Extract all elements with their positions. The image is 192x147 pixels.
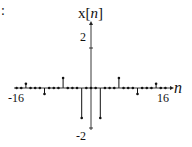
y-axis-arrow-icon [89, 21, 93, 25]
stem-marker [34, 87, 37, 90]
stem-marker [66, 87, 69, 90]
stem-marker [48, 87, 51, 90]
stem-marker [104, 87, 107, 90]
stem-marker [15, 87, 18, 90]
stem-marker [159, 87, 162, 90]
stem-marker [113, 87, 116, 90]
stem-marker [20, 87, 23, 90]
stem-marker [141, 87, 144, 90]
stem-marker [71, 87, 74, 90]
stem-marker [57, 87, 60, 90]
stem-marker [150, 87, 153, 90]
stem-marker [62, 77, 65, 80]
stem-marker [25, 83, 28, 86]
stem-marker [80, 117, 83, 120]
x-axis-label: n [174, 81, 182, 95]
stem-marker [136, 93, 139, 96]
stem-marker [127, 87, 130, 90]
stem-marker [122, 87, 125, 90]
stem-marker [94, 87, 97, 90]
stem-marker [85, 87, 88, 90]
y-axis-label: x[n] [78, 5, 103, 21]
stem-marker [108, 87, 111, 90]
stem-marker [90, 87, 93, 90]
stem-marker [76, 87, 79, 90]
stem-marker [39, 87, 42, 90]
stem-marker [155, 83, 158, 86]
x-tick-label-left: -16 [8, 92, 24, 104]
stem-marker [43, 93, 46, 96]
stem-marker [132, 87, 135, 90]
stem-plot [0, 0, 192, 147]
stem-marker [99, 117, 102, 120]
stem-marker [146, 87, 149, 90]
stem-marker [118, 77, 121, 80]
x-tick-label-right: 16 [157, 92, 169, 104]
stem-marker [164, 87, 167, 90]
stem-marker [53, 87, 56, 90]
y-tick-label-top: 2 [80, 31, 86, 43]
y-tick-label-bottom: -2 [76, 130, 86, 142]
stem-marker [29, 87, 32, 90]
